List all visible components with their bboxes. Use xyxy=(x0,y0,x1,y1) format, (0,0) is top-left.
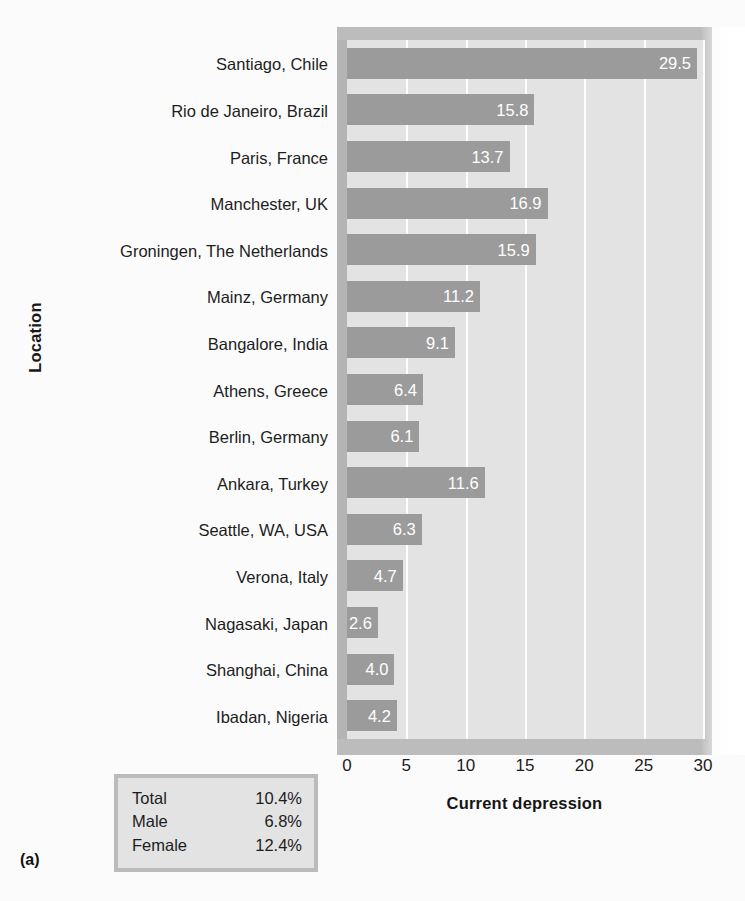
bar-row: 4.2 xyxy=(347,700,703,731)
category-label: Rio de Janeiro, Brazil xyxy=(20,103,328,120)
bar: 16.9 xyxy=(347,188,548,219)
y-axis-spine xyxy=(337,27,347,755)
figure-panel-a: Location Santiago, ChileRio de Janeiro, … xyxy=(0,0,745,901)
category-label: Bangalore, India xyxy=(20,336,328,353)
bar-row: 9.1 xyxy=(347,327,703,358)
panel-caption: (a) xyxy=(20,851,40,869)
bar: 4.7 xyxy=(347,560,403,591)
category-label: Seattle, WA, USA xyxy=(20,522,328,539)
summary-row-value: 10.4% xyxy=(255,787,302,810)
bar-row: 4.7 xyxy=(347,560,703,591)
plot-top-band xyxy=(337,27,712,40)
bar: 6.4 xyxy=(347,374,423,405)
bar: 9.1 xyxy=(347,327,455,358)
bar: 6.1 xyxy=(347,421,419,452)
bar-value-label: 6.3 xyxy=(393,521,416,538)
summary-statistics-box: Total10.4%Male6.8%Female12.4% xyxy=(114,774,318,872)
x-axis-spine xyxy=(337,739,712,755)
bar-row: 11.6 xyxy=(347,467,703,498)
x-tick-label: 20 xyxy=(575,757,594,774)
bar-value-label: 6.1 xyxy=(390,428,413,445)
category-label: Shanghai, China xyxy=(20,662,328,679)
x-tick-label: 5 xyxy=(402,757,411,774)
bar-row: 11.2 xyxy=(347,281,703,312)
bar-row: 29.5 xyxy=(347,48,703,79)
bar: 13.7 xyxy=(347,141,510,172)
bar-value-label: 15.8 xyxy=(496,102,528,119)
category-label: Nagasaki, Japan xyxy=(20,616,328,633)
bar-row: 13.7 xyxy=(347,141,703,172)
summary-row-label: Female xyxy=(132,834,187,857)
x-tick-label: 0 xyxy=(342,757,351,774)
bar-value-label: 4.0 xyxy=(366,661,389,678)
gridline xyxy=(703,40,705,739)
x-axis-tick-labels: 051015202530 xyxy=(337,757,712,783)
summary-row: Female12.4% xyxy=(132,834,302,857)
bar-row: 2.6 xyxy=(347,607,703,638)
bar: 15.8 xyxy=(347,94,534,125)
category-label: Paris, France xyxy=(20,150,328,167)
bar-value-label: 4.2 xyxy=(368,707,391,724)
bar-value-label: 13.7 xyxy=(471,148,503,165)
category-label: Ankara, Turkey xyxy=(20,476,328,493)
bar-value-label: 9.1 xyxy=(426,335,449,352)
bar-row: 16.9 xyxy=(347,188,703,219)
summary-row-label: Total xyxy=(132,787,167,810)
bar-row: 6.1 xyxy=(347,421,703,452)
x-tick-label: 25 xyxy=(634,757,653,774)
bar: 2.6 xyxy=(347,607,378,638)
x-tick-label: 30 xyxy=(694,757,713,774)
category-label: Manchester, UK xyxy=(20,196,328,213)
bar-value-label: 15.9 xyxy=(498,241,530,258)
category-label: Groningen, The Netherlands xyxy=(20,243,328,260)
category-label-column: Santiago, ChileRio de Janeiro, BrazilPar… xyxy=(20,41,328,741)
bar: 11.6 xyxy=(347,467,485,498)
bar-value-label: 2.6 xyxy=(349,614,372,631)
bar-row: 15.9 xyxy=(347,234,703,265)
bar-row: 6.4 xyxy=(347,374,703,405)
bar-value-label: 16.9 xyxy=(509,195,541,212)
category-label: Mainz, Germany xyxy=(20,289,328,306)
bar: 11.2 xyxy=(347,281,480,312)
bar-value-label: 6.4 xyxy=(394,381,417,398)
bar: 4.2 xyxy=(347,700,397,731)
bar-series: 29.515.813.716.915.911.29.16.46.111.66.3… xyxy=(347,40,703,739)
x-tick-label: 10 xyxy=(456,757,475,774)
summary-row: Total10.4% xyxy=(132,787,302,810)
summary-row-value: 6.8% xyxy=(264,810,302,833)
category-label: Athens, Greece xyxy=(20,383,328,400)
bar-value-label: 4.7 xyxy=(374,568,397,585)
category-label: Berlin, Germany xyxy=(20,429,328,446)
summary-row-value: 12.4% xyxy=(255,834,302,857)
bar: 15.9 xyxy=(347,234,536,265)
bar-value-label: 11.6 xyxy=(448,474,479,491)
bar: 29.5 xyxy=(347,48,697,79)
bar: 4.0 xyxy=(347,654,394,685)
bar-value-label: 29.5 xyxy=(659,55,691,72)
bar: 6.3 xyxy=(347,514,422,545)
bar-row: 6.3 xyxy=(347,514,703,545)
bar-row: 15.8 xyxy=(347,94,703,125)
bar-row: 4.0 xyxy=(347,654,703,685)
summary-row: Male6.8% xyxy=(132,810,302,833)
category-label: Verona, Italy xyxy=(20,569,328,586)
bar-value-label: 11.2 xyxy=(443,288,474,305)
x-tick-label: 15 xyxy=(516,757,535,774)
summary-row-label: Male xyxy=(132,810,168,833)
category-label: Ibadan, Nigeria xyxy=(20,709,328,726)
x-axis-title: Current depression xyxy=(337,794,712,813)
category-label: Santiago, Chile xyxy=(20,56,328,73)
plot-area: 29.515.813.716.915.911.29.16.46.111.66.3… xyxy=(337,27,712,755)
